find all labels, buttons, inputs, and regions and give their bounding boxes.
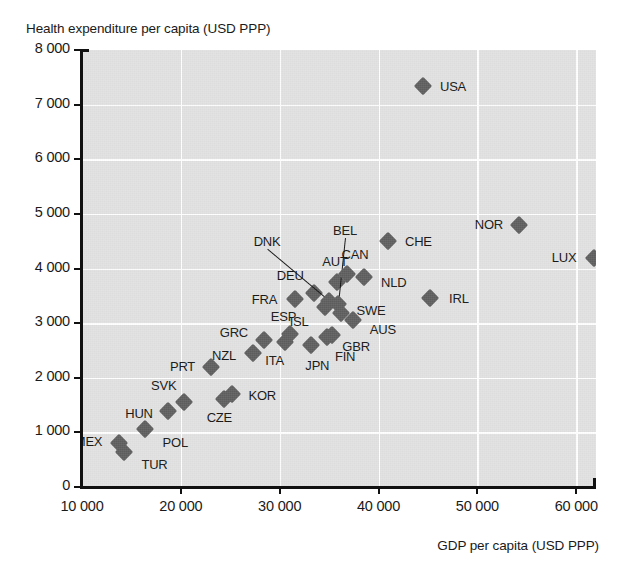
data-label-pol: POL — [163, 434, 188, 449]
data-label-che: CHE — [405, 234, 432, 249]
gridline-x-50000 — [477, 50, 479, 487]
data-label-gbr: GBR — [342, 339, 370, 354]
gridline-x-60000 — [576, 50, 578, 487]
gridline-x-20000 — [181, 50, 183, 487]
data-label-nor: NOR — [475, 216, 503, 231]
y-tick-mark-5000 — [74, 213, 82, 215]
data-label-swe: SWE — [356, 303, 385, 318]
data-label-irl: IRL — [449, 290, 469, 305]
data-label-svk: SVK — [151, 377, 176, 392]
data-point-irl[interactable] — [421, 289, 439, 307]
data-point-nzl[interactable] — [244, 343, 262, 361]
y-tick-label-6000: 6 000 — [0, 149, 70, 165]
gridline-y-7000 — [82, 105, 596, 107]
gridline-y-3000 — [82, 323, 596, 325]
data-point-svk[interactable] — [175, 393, 193, 411]
x-tick-label-50000: 50 000 — [456, 498, 499, 514]
y-tick-label-2000: 2 000 — [0, 368, 70, 384]
data-point-hun[interactable] — [159, 401, 177, 419]
data-point-fra[interactable] — [285, 289, 303, 307]
x-tick-mark-40000 — [378, 487, 380, 494]
data-label-cze: CZE — [207, 409, 232, 424]
data-label-ita: ITA — [265, 353, 284, 368]
x-tick-label-20000: 20 000 — [159, 498, 202, 514]
x-tick-label-60000: 60 000 — [555, 498, 598, 514]
x-tick-mark-20000 — [180, 487, 182, 494]
data-label-nzl: NZL — [212, 347, 236, 362]
data-label-tur: TUR — [141, 457, 167, 472]
data-label-can: CAN — [341, 246, 368, 261]
y-tick-label-5000: 5 000 — [0, 204, 70, 220]
data-point-nld[interactable] — [355, 268, 373, 286]
data-label-lux: LUX — [552, 249, 577, 264]
y-tick-mark-4000 — [74, 268, 82, 270]
x-axis-right-cap — [593, 478, 596, 489]
data-point-jpn[interactable] — [302, 336, 320, 354]
data-point-lux[interactable] — [585, 248, 596, 266]
data-label-grc: GRC — [220, 324, 248, 339]
x-tick-mark-30000 — [279, 487, 281, 494]
y-tick-mark-2000 — [74, 377, 82, 379]
data-label-kor: KOR — [248, 388, 276, 403]
x-axis-line — [80, 486, 596, 489]
y-tick-mark-6000 — [74, 158, 82, 160]
data-label-hun: HUN — [125, 405, 153, 420]
y-tick-label-0: 0 — [0, 477, 70, 493]
y-tick-label-1000: 1 000 — [0, 422, 70, 438]
data-label-isl: ISL — [290, 313, 309, 328]
y-tick-mark-1000 — [74, 431, 82, 433]
data-label-jpn: JPN — [305, 357, 329, 372]
data-label-dnk: DNK — [254, 234, 281, 249]
x-tick-mark-60000 — [575, 487, 577, 494]
data-point-pol[interactable] — [136, 419, 154, 437]
data-point-che[interactable] — [379, 232, 397, 250]
data-point-usa[interactable] — [414, 76, 432, 94]
gridline-x-40000 — [379, 50, 381, 487]
gridline-y-6000 — [82, 159, 596, 161]
x-tick-label-30000: 30 000 — [258, 498, 301, 514]
data-point-nor[interactable] — [510, 216, 528, 234]
y-tick-mark-8000 — [74, 49, 82, 51]
data-label-bel: BEL — [333, 223, 357, 238]
x-tick-label-40000: 40 000 — [357, 498, 400, 514]
y-tick-mark-3000 — [74, 322, 82, 324]
data-label-aus: AUS — [370, 322, 396, 337]
scatter-chart: Health expenditure per capita (USD PPP) … — [0, 0, 617, 576]
y-axis-title: Health expenditure per capita (USD PPP) — [26, 21, 270, 36]
data-label-usa: USA — [440, 78, 466, 93]
x-tick-mark-50000 — [476, 487, 478, 494]
y-tick-mark-0 — [74, 486, 82, 488]
data-label-fra: FRA — [252, 291, 277, 306]
data-label-mex: MEX — [82, 434, 102, 449]
y-tick-label-7000: 7 000 — [0, 95, 70, 111]
data-label-nld: NLD — [381, 275, 406, 290]
y-tick-label-3000: 3 000 — [0, 313, 70, 329]
y-tick-label-8000: 8 000 — [0, 40, 70, 56]
x-tick-label-10000: 10 000 — [60, 498, 103, 514]
gridline-y-4000 — [82, 269, 596, 271]
y-tick-label-4000: 4 000 — [0, 259, 70, 275]
plot-area: MEXTURPOLHUNSVKPRTCZEKORNZLGRCITAESPFRAJ… — [82, 50, 596, 487]
data-label-prt: PRT — [170, 358, 195, 373]
gridline-y-1000 — [82, 432, 596, 434]
x-axis-title: GDP per capita (USD PPP) — [437, 538, 599, 553]
data-point-grc[interactable] — [255, 330, 273, 348]
y-tick-mark-7000 — [74, 104, 82, 106]
